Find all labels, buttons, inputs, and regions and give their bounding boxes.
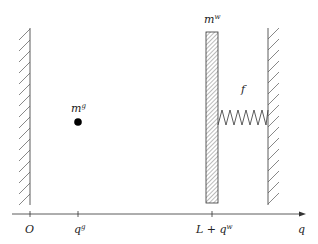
left-wall <box>19 28 30 205</box>
diagram-canvas: mg mw f <box>0 0 318 244</box>
wall-mass: mw <box>204 13 220 203</box>
spring-label: f <box>240 83 247 96</box>
tick-label-lqw: L + qw <box>195 223 233 236</box>
wall-mass-block <box>206 32 218 203</box>
point-mass: mg <box>71 102 86 126</box>
axis-label: q <box>298 223 305 236</box>
q-axis: O qg L + qw q <box>12 211 306 236</box>
tick-label-qg: qg <box>74 223 86 236</box>
point-mass-dot <box>74 118 82 126</box>
wall-mass-label: mw <box>204 13 220 26</box>
axis-arrowhead-icon <box>299 212 306 217</box>
point-mass-label: mg <box>71 102 86 115</box>
spring-coil <box>218 110 268 125</box>
right-wall <box>268 28 279 205</box>
tick-label-origin: O <box>25 223 34 236</box>
spring: f <box>218 83 268 125</box>
